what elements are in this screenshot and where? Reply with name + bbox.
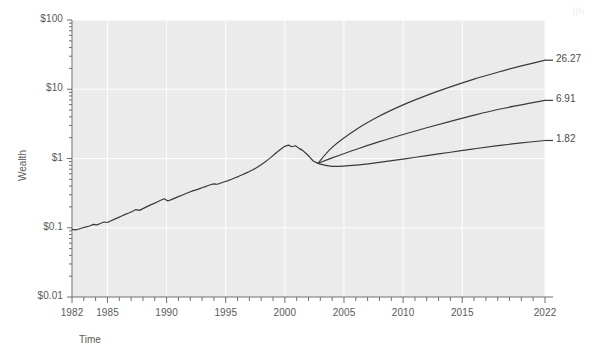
x-tick-label: 2022 [520,307,570,318]
x-tick-label: 2015 [437,307,487,318]
x-tick-label: 1995 [201,307,251,318]
y-tick-label: $1 [0,152,63,163]
y-tick-label: $10 [0,82,63,93]
end-label-upper: 26.27 [556,53,581,64]
label-leader-lines [545,60,553,140]
x-tick-label: 2005 [319,307,369,318]
chart-canvas [0,0,592,356]
x-tick-label: 1985 [82,307,132,318]
y-tick-label: $100 [0,13,63,24]
x-tick-label: 2010 [378,307,428,318]
y-tick-label: $0.01 [0,290,63,301]
scan-artifact-icon [572,6,586,18]
axis-ticks [67,20,545,303]
x-axis-title: Time [60,334,120,345]
x-tick-label: 2000 [260,307,310,318]
chart-figure: Wealth Time $0.01$0.1$1$10$100 198219851… [0,0,592,356]
data-series-group [72,60,545,230]
y-axis-title: Wealth [17,136,28,196]
gridlines [72,20,545,297]
y-tick-label: $0.1 [0,221,63,232]
x-tick-label: 1990 [142,307,192,318]
end-label-middle: 6.91 [556,93,575,104]
end-label-lower: 1.82 [556,133,575,144]
